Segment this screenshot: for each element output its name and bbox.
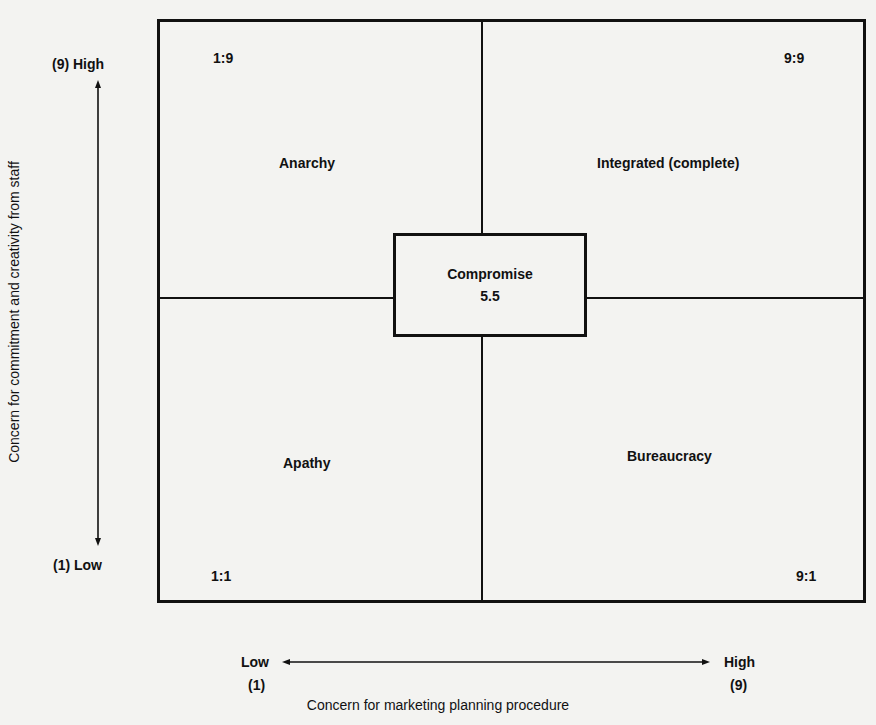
- center-name: Compromise: [447, 263, 533, 285]
- x-axis-high-label: High: [724, 654, 755, 670]
- quadrant-top-left-name: Anarchy: [279, 155, 335, 171]
- y-axis-title: Concern for commitment and creativity fr…: [6, 161, 22, 463]
- quadrant-bottom-left-coord: 1:1: [211, 568, 231, 584]
- quadrant-bottom-right-name: Bureaucracy: [627, 448, 712, 464]
- quadrant-top-left-coord: 1:9: [213, 50, 233, 66]
- y-axis-double-arrow-icon: [88, 80, 108, 546]
- vertical-divider-top: [481, 20, 483, 234]
- vertical-divider-bottom: [481, 336, 483, 602]
- center-compromise-box: Compromise 5.5: [393, 233, 587, 337]
- x-axis-high-value: (9): [730, 677, 747, 693]
- y-axis-low-label: (1) Low: [53, 557, 102, 573]
- quadrant-bottom-left-name: Apathy: [283, 455, 330, 471]
- y-axis-high-label: (9) High: [52, 56, 104, 72]
- x-axis-title: Concern for marketing planning procedure: [0, 697, 876, 713]
- x-axis-low-label: Low: [241, 654, 269, 670]
- center-coord: 5.5: [480, 285, 499, 307]
- quadrant-top-right-name: Integrated (complete): [597, 155, 739, 171]
- horizontal-divider-left: [158, 297, 394, 299]
- horizontal-divider-right: [586, 297, 865, 299]
- x-axis-double-arrow-icon: [282, 656, 710, 668]
- quadrant-top-right-coord: 9:9: [784, 50, 804, 66]
- quadrant-bottom-right-coord: 9:1: [796, 568, 816, 584]
- x-axis-low-value: (1): [248, 677, 265, 693]
